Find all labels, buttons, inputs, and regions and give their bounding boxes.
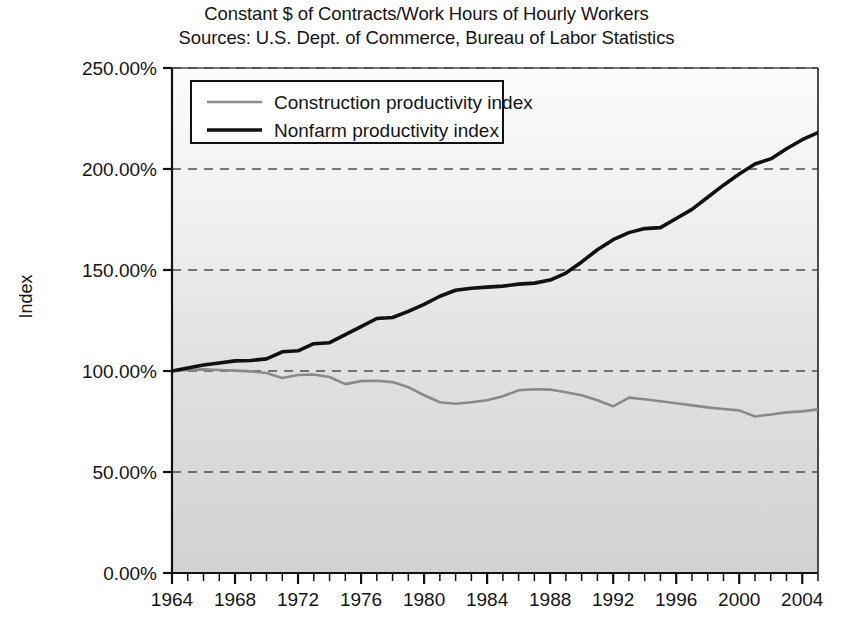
x-tick-label: 1996: [655, 589, 697, 610]
x-tick-label: 1980: [403, 589, 445, 610]
chart-figure: Constant $ of Contracts/Work Hours of Ho…: [0, 0, 853, 633]
x-axis-ticks: 1964196819721976198019841988199219962000…: [151, 573, 824, 610]
x-tick-label: 1992: [592, 589, 634, 610]
chart-subtitle: Sources: U.S. Dept. of Commerce, Bureau …: [0, 26, 853, 50]
x-tick-label: 1984: [466, 589, 509, 610]
x-tick-label: 1968: [214, 589, 256, 610]
y-tick-label: 250.00%: [82, 58, 157, 79]
y-axis-ticks: 0.00%50.00%100.00%150.00%200.00%250.00%: [82, 58, 172, 584]
y-tick-label: 50.00%: [93, 462, 158, 483]
x-tick-label: 2000: [718, 589, 760, 610]
plot-svg: 0.00%50.00%100.00%150.00%200.00%250.00% …: [0, 0, 853, 633]
y-tick-label: 150.00%: [82, 260, 157, 281]
chart-legend: Construction productivity indexNonfarm p…: [191, 81, 533, 143]
x-tick-label: 1976: [340, 589, 382, 610]
legend-label: Construction productivity index: [274, 92, 533, 113]
y-axis-label: Index: [16, 247, 37, 347]
y-tick-label: 0.00%: [103, 563, 157, 584]
x-tick-label: 1988: [529, 589, 571, 610]
y-tick-label: 200.00%: [82, 159, 157, 180]
x-tick-label: 1972: [277, 589, 319, 610]
chart-title: Constant $ of Contracts/Work Hours of Ho…: [0, 2, 853, 26]
legend-label: Nonfarm productivity index: [274, 120, 499, 141]
x-tick-label: 2004: [781, 589, 824, 610]
y-tick-label: 100.00%: [82, 361, 157, 382]
chart-title-block: Constant $ of Contracts/Work Hours of Ho…: [0, 2, 853, 51]
x-tick-label: 1964: [151, 589, 194, 610]
